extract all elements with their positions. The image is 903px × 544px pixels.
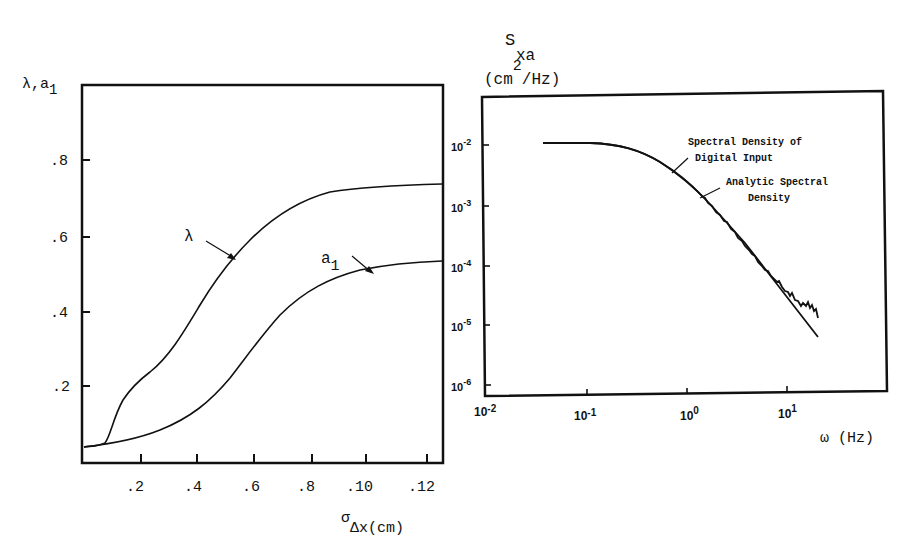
- analytic-spectral-density-curve: [543, 143, 818, 337]
- right-x-tick-labels: 10-2 10-1 100 101: [474, 403, 797, 423]
- x-tick-label: 100: [680, 405, 699, 423]
- digital-input-annotation-line1: Spectral Density of: [688, 137, 802, 148]
- y-tick-label: 10-3: [451, 198, 471, 214]
- figure-canvas: λ,a1 .8 .6 .4 .2 .2 .4 .6: [0, 0, 903, 544]
- a1-curve: [84, 261, 442, 447]
- right-y-axis-label-s: S: [505, 31, 515, 50]
- x-tick-label: .8: [297, 479, 315, 496]
- left-x-tick-labels: .2 .4 .6 .8 .10 .12: [126, 479, 435, 496]
- left-chart: λ,a1 .8 .6 .4 .2 .2 .4 .6: [22, 76, 443, 537]
- digital-input-arrow-icon: [672, 158, 688, 173]
- x-tick-label: .4: [184, 479, 202, 496]
- y-tick-label: 10-6: [451, 377, 471, 393]
- y-tick-label: .6: [50, 230, 68, 247]
- analytic-annotation-line2: Density: [748, 193, 790, 204]
- left-x-ticks: [141, 454, 427, 463]
- left-plot-frame: [82, 85, 443, 463]
- lambda-curve-label: λ: [184, 228, 194, 246]
- analytic-annotation-line1: Analytic Spectral: [726, 177, 828, 188]
- right-chart: S xa (cm2/Hz) 10-2 10-3 10-4 10-5 10-6 1…: [451, 31, 887, 447]
- right-y-tick-labels: 10-2 10-3 10-4 10-5 10-6: [451, 137, 471, 393]
- right-x-axis-label: ω (Hz): [820, 430, 874, 447]
- a1-curve-label: a1: [321, 250, 340, 275]
- x-tick-label: 10-1: [574, 407, 597, 423]
- x-tick-label: 101: [778, 403, 797, 421]
- y-tick-label: 10-5: [451, 317, 471, 333]
- y-tick-label: 10-2: [451, 137, 471, 153]
- x-tick-label: .10: [346, 479, 373, 496]
- digital-input-spectral-density-curve: [543, 143, 818, 318]
- x-tick-label: 10-2: [474, 403, 497, 419]
- digital-input-annotation-line2: Digital Input: [695, 153, 773, 164]
- y-tick-label: 10-4: [451, 258, 471, 274]
- y-tick-label: .2: [52, 379, 70, 396]
- left-x-axis-label: σΔx(cm): [341, 510, 404, 537]
- left-y-tick-labels: .8 .6 .4 .2: [50, 153, 70, 396]
- right-plot-frame: [482, 91, 887, 396]
- x-tick-label: .6: [242, 479, 260, 496]
- y-tick-label: .4: [50, 305, 68, 322]
- y-tick-label: .8: [50, 153, 68, 170]
- x-tick-label: .2: [126, 479, 144, 496]
- analytic-arrow-icon: [700, 188, 720, 198]
- lambda-curve: [84, 184, 442, 447]
- left-y-axis-label: λ,a1: [22, 76, 57, 98]
- x-tick-label: .12: [408, 479, 435, 496]
